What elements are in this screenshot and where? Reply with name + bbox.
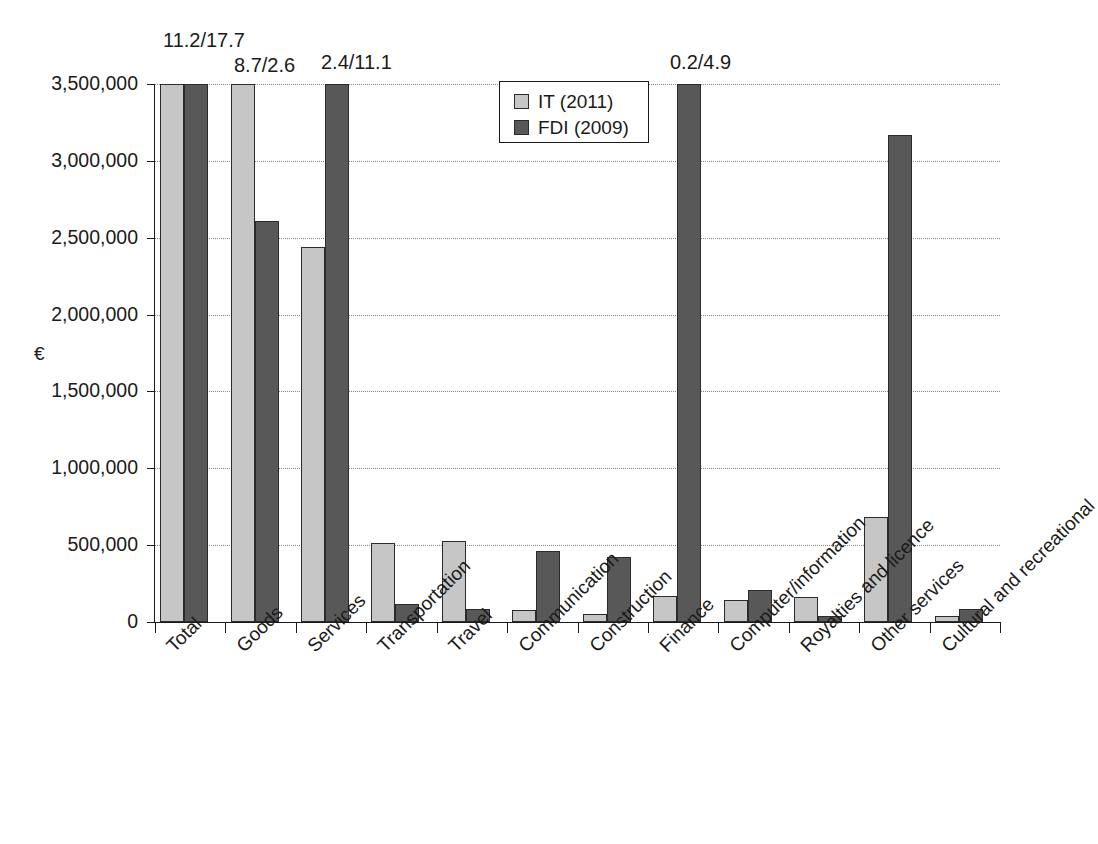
x-tick-mark	[648, 622, 649, 633]
bar-it	[231, 84, 255, 622]
gridline	[155, 315, 1000, 316]
y-axis-title: €	[34, 343, 45, 365]
bar-annotation: 2.4/11.1	[321, 52, 392, 72]
legend-entry-it[interactable]: IT (2011)	[514, 89, 648, 113]
legend-label: IT (2011)	[538, 92, 613, 111]
bar-it	[583, 614, 607, 622]
bar-annotation: 0.2/4.9	[670, 52, 731, 72]
bar-it	[301, 247, 325, 622]
x-tick-mark	[225, 622, 226, 633]
bar-fdi	[184, 84, 208, 622]
bar-it	[160, 84, 184, 622]
gridline	[155, 161, 1000, 162]
legend-entry-fdi[interactable]: FDI (2009)	[514, 115, 648, 139]
y-tick-mark	[147, 468, 155, 469]
x-tick-mark	[789, 622, 790, 633]
plot-area	[155, 84, 1000, 622]
x-tick-mark	[718, 622, 719, 633]
y-tick-label: 2,000,000	[0, 305, 138, 325]
bar-fdi	[677, 84, 701, 622]
y-tick-label: 2,500,000	[0, 228, 138, 248]
x-tick-mark	[155, 622, 156, 633]
bar-it	[794, 597, 818, 622]
x-tick-mark	[859, 622, 860, 633]
y-tick-label: 3,000,000	[0, 151, 138, 171]
y-tick-label: 1,500,000	[0, 381, 138, 401]
x-tick-mark	[507, 622, 508, 633]
y-tick-mark	[147, 545, 155, 546]
y-tick-label: 0	[0, 612, 138, 632]
y-tick-label: 3,500,000	[0, 74, 138, 94]
bar-annotation: 8.7/2.6	[234, 55, 295, 75]
y-axis-line	[154, 84, 155, 623]
x-tick-mark	[1000, 622, 1001, 633]
x-tick-mark	[578, 622, 579, 633]
bar-annotation: 11.2/17.7	[163, 30, 245, 50]
bar-fdi	[325, 84, 349, 622]
x-tick-mark	[437, 622, 438, 633]
gridline	[155, 391, 1000, 392]
y-tick-mark	[147, 238, 155, 239]
y-tick-mark	[147, 161, 155, 162]
chart-legend: IT (2011)FDI (2009)	[499, 81, 649, 143]
x-tick-mark	[296, 622, 297, 633]
y-tick-mark	[147, 391, 155, 392]
bar-it	[371, 543, 395, 622]
bar-it	[724, 600, 748, 622]
bar-it	[512, 610, 536, 622]
y-tick-mark	[147, 315, 155, 316]
gridline	[155, 238, 1000, 239]
legend-label: FDI (2009)	[538, 118, 629, 137]
legend-swatch-fdi-icon	[514, 120, 529, 135]
y-tick-label: 1,000,000	[0, 458, 138, 478]
gridline	[155, 468, 1000, 469]
x-tick-mark	[366, 622, 367, 633]
x-tick-mark	[930, 622, 931, 633]
y-tick-mark	[147, 84, 155, 85]
bar-fdi	[255, 221, 279, 622]
bar-it	[653, 596, 677, 622]
legend-swatch-it-icon	[514, 94, 529, 109]
y-tick-label: 500,000	[0, 535, 138, 555]
y-tick-mark	[147, 622, 155, 623]
